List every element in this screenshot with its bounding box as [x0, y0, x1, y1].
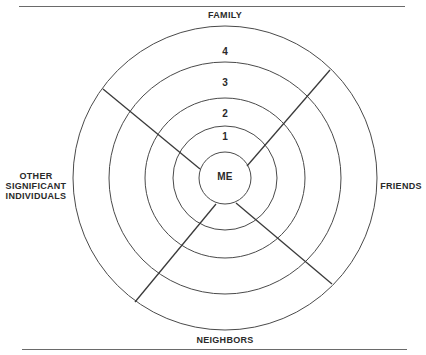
- ring-label-4: 4: [217, 46, 233, 57]
- ring-label-2: 2: [217, 108, 233, 119]
- label-line-2: SIGNIFICANT: [3, 181, 69, 191]
- divider-lower-left: [135, 204, 216, 302]
- ring-label-1: 1: [217, 131, 233, 142]
- ring-label-3: 3: [217, 77, 233, 88]
- sector-label-other-significant-individuals: OTHER SIGNIFICANT INDIVIDUALS: [3, 171, 69, 201]
- divider-upper-right: [247, 70, 330, 166]
- divider-upper-left: [103, 89, 200, 169]
- sector-label-family: FAMILY: [185, 10, 265, 20]
- sector-label-neighbors: NEIGHBORS: [175, 335, 275, 345]
- divider-lower-right: [236, 203, 332, 284]
- label-line-3: INDIVIDUALS: [3, 191, 69, 201]
- center-label-me: ME: [210, 172, 240, 182]
- label-line-1: OTHER: [3, 171, 69, 181]
- sector-label-friends: FRIENDS: [378, 181, 424, 191]
